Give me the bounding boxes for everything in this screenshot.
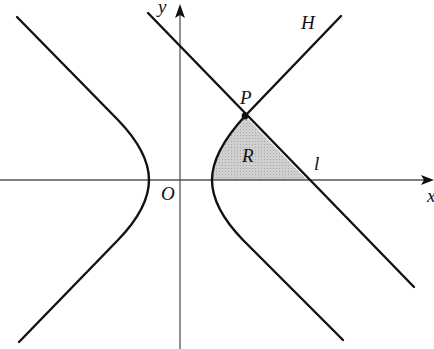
x-axis-label: x (427, 186, 434, 205)
point-p-dot (242, 113, 249, 120)
region-r-label: R (242, 146, 254, 165)
line-l (148, 13, 414, 287)
point-p-label: P (240, 88, 252, 107)
diagram-canvas: y x O H P R l (0, 0, 434, 349)
y-axis-label: y (158, 0, 166, 16)
diagram-svg (0, 0, 434, 349)
line-l-label: l (314, 154, 319, 173)
origin-label: O (161, 184, 175, 203)
hyperbola-label: H (301, 13, 315, 32)
region-r-shade (212, 116, 307, 180)
